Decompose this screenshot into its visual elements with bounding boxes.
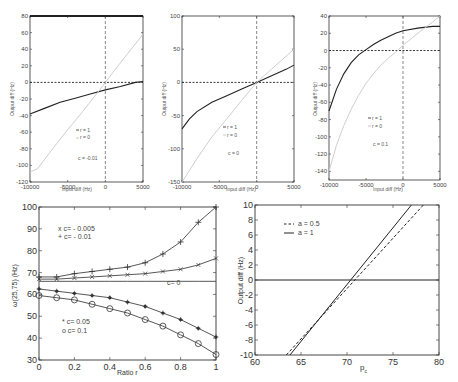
top-left-xtick-label: 0 (104, 184, 108, 190)
top-middle-ytick-label: -150 (168, 179, 181, 185)
bottom-right-ytick-label: -4 (245, 305, 253, 315)
bottom-left-xtick-label: 0.4 (104, 362, 117, 372)
bottom-right-ytick-label: 6 (248, 230, 253, 240)
top-right-xtick-label: -10000 (320, 182, 339, 188)
top-middle-xtick-label: 5000 (287, 184, 301, 190)
bottom-left-xtick-label: 0 (36, 362, 41, 372)
top-right-ytick-label: 0 (324, 48, 328, 54)
top-left-xtick-label: -5000 (60, 184, 76, 190)
top-middle-xtick-label: 0 (255, 184, 259, 190)
top-left-ytick-label: -80 (19, 146, 28, 152)
top-left-ytick-label: 80 (21, 13, 28, 19)
bottom-left-ytick-label: 30 (27, 355, 37, 365)
bottom-right-ytick-label: -8 (245, 335, 253, 345)
bottom-right-ytick-label: 10 (243, 200, 253, 210)
top-right-ytick-label: -20 (318, 65, 327, 71)
top-left-series-r-1 (30, 82, 143, 114)
top-right-xtick-label: 5000 (433, 182, 447, 188)
top-right-ytick-label: -60 (318, 99, 327, 105)
top-left-ytick-label: -120 (16, 179, 29, 185)
bottom-left-ytick-label: 40 (27, 333, 37, 343)
top-right-ytick-label: 40 (320, 13, 327, 19)
top-right-xtick-label: 0 (401, 182, 405, 188)
top-middle-series-r-0 (182, 49, 294, 182)
figure: -10000-500005000-120-100-80-60-40-200204… (0, 0, 458, 382)
bottom-left-xtick-label: 0.6 (139, 362, 152, 372)
top-left-xtick-label: 5000 (136, 184, 150, 190)
top-left-ytick-label: 60 (21, 30, 28, 36)
top-left-ytick-label: -100 (16, 162, 29, 168)
bottom-left-ytick-label: 90 (27, 224, 37, 234)
top-left-series-r-0 (30, 34, 143, 172)
bottom-left-xtick-label: 0.2 (68, 362, 81, 372)
top-middle-ytick-label: 100 (170, 13, 181, 19)
top-right-ytick-label: 20 (320, 30, 327, 36)
bottom-left-ytick-label: 70 (27, 268, 37, 278)
top-left-ytick-label: -40 (19, 113, 28, 119)
bottom-left-ytick-label: 80 (27, 246, 37, 256)
bottom-right-ytick-label: 4 (248, 245, 253, 255)
bottom-right-ytick-label: 0 (248, 275, 253, 285)
top-left-ytick-label: 40 (21, 46, 28, 52)
top-right-ytick-label: -140 (315, 168, 328, 174)
top-right-ytick-label: -40 (318, 82, 327, 88)
top-right-axes-box (329, 16, 440, 180)
top-middle-xtick-label: -5000 (212, 184, 228, 190)
top-middle-series-r-1 (182, 65, 294, 129)
top-middle-ytick-label: -50 (171, 113, 180, 119)
bottom-left-xtick-label: 0.8 (174, 362, 187, 372)
top-left-ytick-label: -60 (19, 129, 28, 135)
top-middle-ytick-label: 50 (173, 46, 180, 52)
bottom-right-ytick-label: 2 (248, 260, 253, 270)
bottom-left-plot: 00.20.40.60.8130405060708090100 (22, 202, 219, 372)
top-middle-ytick-label: -100 (168, 146, 181, 152)
bottom-left-axes-box (39, 207, 216, 360)
bottom-left-ytick-label: 60 (27, 289, 37, 299)
top-right-ytick-label: -80 (318, 117, 327, 123)
top-middle-ytick-label: 0 (177, 79, 181, 85)
top-right-plot: -10000-500005000-140-120-100-80-60-40-20… (315, 13, 447, 188)
top-left-axes-box (30, 16, 143, 182)
top-left-plot: -10000-500005000-120-100-80-60-40-200204… (16, 13, 150, 190)
top-right-xtick-label: -5000 (358, 182, 374, 188)
bottom-right-ytick-label: -2 (245, 290, 253, 300)
bottom-right-xtick-label: 70 (342, 357, 352, 367)
top-left-ytick-label: 0 (25, 79, 29, 85)
bottom-left-xtick-label: 1 (213, 362, 218, 372)
top-left-ytick-label: 20 (21, 63, 28, 69)
bottom-right-xtick-label: 65 (296, 357, 306, 367)
bottom-right-xtick-label: 80 (434, 357, 444, 367)
bottom-right-ytick-label: -6 (245, 320, 253, 330)
bottom-right-ytick-label: 8 (248, 215, 253, 225)
top-left-ytick-label: -20 (19, 96, 28, 102)
bottom-right-plot: 6065707580-10-8-6-4-20246810 (240, 200, 444, 367)
bottom-left-ytick-label: 100 (22, 202, 37, 212)
bottom-right-xtick-label: 75 (388, 357, 398, 367)
top-right-series-r-0 (329, 16, 440, 171)
bottom-right-ytick-label: -10 (240, 350, 253, 360)
top-right-ytick-label: -120 (315, 151, 328, 157)
top-right-ytick-label: -100 (315, 134, 328, 140)
top-middle-axes-box (182, 16, 294, 182)
top-right-series-r-1 (329, 26, 440, 111)
bottom-left-ytick-label: 50 (27, 311, 37, 321)
top-middle-plot: -10000-500005000-150-100-50050100 (168, 13, 301, 190)
